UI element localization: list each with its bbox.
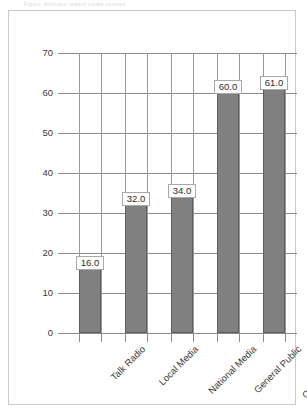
y-tick-label: 60 — [25, 88, 53, 98]
y-tick-mark — [58, 133, 67, 134]
bar — [171, 197, 193, 333]
x-gridline — [101, 53, 102, 333]
x-gridline — [285, 53, 286, 333]
plot-area: 16.032.034.060.061.0 — [67, 53, 297, 333]
x-tick-mark — [147, 333, 148, 342]
x-category-label: National Media — [207, 344, 259, 396]
y-tick-label: 50 — [25, 128, 53, 138]
y-tick-label: 10 — [25, 288, 53, 298]
bar-value-label: 60.0 — [214, 80, 242, 94]
bar — [125, 205, 147, 333]
y-tick-label: 0 — [25, 328, 53, 338]
bar-value-label: 32.0 — [122, 192, 150, 206]
y-tick-mark — [58, 253, 67, 254]
x-tick-mark — [263, 333, 264, 342]
bar — [263, 89, 285, 333]
x-tick-mark — [217, 333, 218, 342]
y-tick-mark — [58, 333, 67, 334]
x-tick-mark — [239, 333, 240, 342]
y-tick-label: 30 — [25, 208, 53, 218]
y-tick-mark — [58, 173, 67, 174]
x-tick-mark — [79, 333, 80, 342]
x-category-label: Local Media — [157, 344, 200, 387]
bar-value-label: 16.0 — [76, 256, 104, 270]
clipped-title-text: Figure: Attitudes toward media sources — [24, 0, 214, 8]
bar-value-label: 34.0 — [168, 184, 196, 198]
bar — [217, 93, 239, 333]
y-tick-mark — [58, 53, 67, 54]
x-category-label: Talk Radio — [109, 344, 147, 382]
y-tick-label: 40 — [25, 168, 53, 178]
y-tick-mark — [58, 213, 67, 214]
x-tick-mark — [193, 333, 194, 342]
x-tick-mark — [125, 333, 126, 342]
y-tick-label: 70 — [25, 48, 53, 58]
y-tick-mark — [58, 293, 67, 294]
x-tick-mark — [101, 333, 102, 342]
x-tick-mark — [285, 333, 286, 342]
x-tick-mark — [171, 333, 172, 342]
chart-frame: 16.032.034.060.061.0 010203040506070 Tal… — [8, 10, 296, 405]
bar-value-label: 61.0 — [260, 76, 288, 90]
bar — [79, 269, 101, 333]
x-gridline — [239, 53, 240, 333]
y-tick-mark — [58, 93, 67, 94]
y-tick-label: 20 — [25, 248, 53, 258]
x-category-label: General Public — [252, 344, 303, 395]
